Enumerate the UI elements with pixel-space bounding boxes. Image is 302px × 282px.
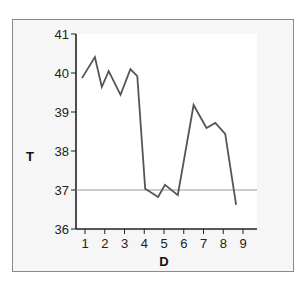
y-tick-label: 41 xyxy=(55,27,69,42)
x-tick-label: 1 xyxy=(81,236,88,251)
x-axis: 123456789 xyxy=(76,229,257,251)
x-tick-label: 8 xyxy=(220,236,227,251)
x-tick-label: 7 xyxy=(200,236,207,251)
y-tick-label: 39 xyxy=(55,105,69,120)
y-tick-label: 38 xyxy=(55,144,69,159)
x-tick-label: 6 xyxy=(180,236,187,251)
x-tick-label: 4 xyxy=(141,236,148,251)
line-chart: 363738394041 123456789 T D xyxy=(0,0,302,282)
y-axis: 363738394041 xyxy=(55,27,76,237)
temperature-series-line xyxy=(82,57,236,205)
x-tick-label: 3 xyxy=(121,236,128,251)
y-axis-title: T xyxy=(26,149,34,164)
x-tick-label: 9 xyxy=(239,236,246,251)
x-tick-label: 5 xyxy=(160,236,167,251)
y-tick-label: 37 xyxy=(55,183,69,198)
x-tick-label: 2 xyxy=(101,236,108,251)
x-axis-title: D xyxy=(159,254,168,269)
y-tick-label: 36 xyxy=(55,222,69,237)
y-tick-label: 40 xyxy=(55,66,69,81)
